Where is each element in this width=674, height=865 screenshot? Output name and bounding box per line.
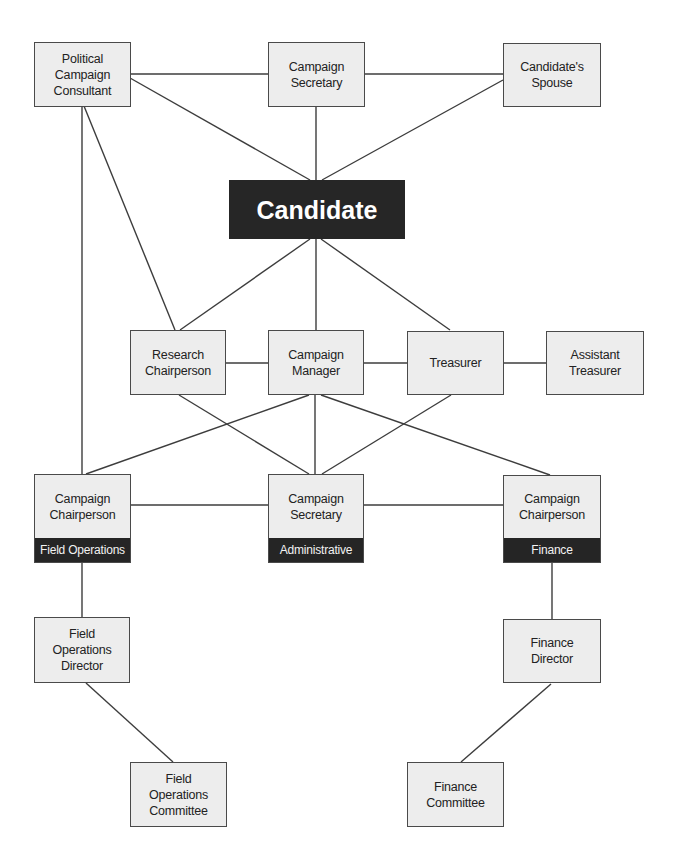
node-chairperson-finance: Campaign Chairperson Finance [503, 475, 601, 563]
node-finance-committee: Finance Committee [407, 762, 504, 827]
node-candidates-spouse: Candidate's Spouse [503, 43, 601, 107]
node-label: Finance Committee [408, 763, 503, 826]
node-label: Campaign Secretary [269, 43, 364, 106]
edge-manager-finance [321, 395, 550, 475]
node-research-chairperson: Research Chairperson [130, 330, 226, 395]
node-label: Campaign Chairperson [35, 475, 130, 538]
node-label: Campaign Manager [269, 331, 363, 394]
edge-findirector-committee [461, 684, 551, 762]
edge-candidate-research [180, 239, 310, 330]
node-label: Campaign Chairperson [504, 476, 600, 538]
node-label: Candidate [230, 181, 404, 238]
node-treasurer: Treasurer [407, 331, 504, 395]
node-label: Finance Director [504, 620, 600, 682]
node-label: Political Campaign Consultant [35, 43, 130, 106]
node-assistant-treasurer: Assistant Treasurer [546, 331, 644, 395]
node-finance-director: Finance Director [503, 619, 601, 683]
node-label: Treasurer [408, 332, 503, 394]
node-label: Candidate's Spouse [504, 44, 600, 106]
node-political-consultant: Political Campaign Consultant [34, 42, 131, 107]
edge-candidate-treasurer [321, 239, 450, 330]
node-secretary-administrative: Campaign Secretary Administrative [268, 474, 364, 563]
node-label: Campaign Secretary [269, 475, 363, 538]
edge-treasurer-admin [322, 395, 451, 474]
node-campaign-manager: Campaign Manager [268, 330, 364, 395]
node-field-operations-committee: Field Operations Committee [130, 762, 227, 827]
node-candidate: Candidate [229, 180, 405, 239]
node-field-operations-director: Field Operations Director [34, 617, 130, 683]
node-label: Assistant Treasurer [547, 332, 643, 394]
node-band-label: Administrative [269, 538, 363, 562]
node-band-label: Finance [504, 538, 600, 562]
node-label: Research Chairperson [131, 331, 225, 394]
node-chairperson-field-operations: Campaign Chairperson Field Operations [34, 474, 131, 563]
org-chart: Political Campaign Consultant Campaign S… [0, 0, 674, 865]
edge-fodirector-committee [86, 683, 173, 762]
connector-lines [0, 0, 674, 865]
edge-consultant-research [84, 106, 175, 330]
node-campaign-secretary-top: Campaign Secretary [268, 42, 365, 107]
node-label: Field Operations Director [35, 618, 129, 682]
node-band-label: Field Operations [35, 538, 130, 562]
node-label: Field Operations Committee [131, 763, 226, 826]
